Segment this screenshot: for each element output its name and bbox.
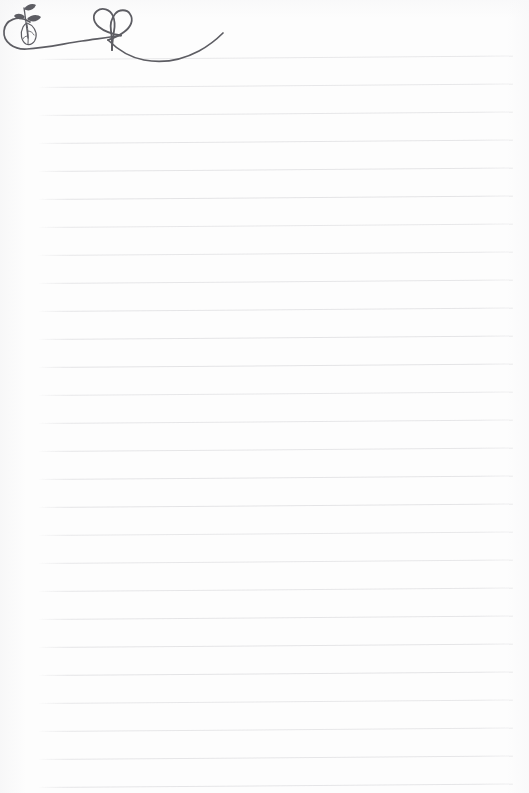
rule-line (38, 476, 513, 480)
rule-line (38, 532, 513, 536)
rule-line (38, 784, 513, 788)
rule-line (38, 672, 513, 676)
rule-line (38, 560, 513, 564)
rule-line (38, 56, 513, 60)
rule-line (38, 140, 513, 144)
rule-line (38, 168, 513, 172)
rule-line (38, 420, 513, 424)
rule-line (38, 728, 513, 732)
rule-line (38, 196, 513, 200)
rule-line (38, 616, 513, 620)
rule-line (38, 252, 513, 256)
rule-line (38, 756, 513, 760)
rule-line (38, 504, 513, 508)
rule-line (38, 280, 513, 284)
rule-line (38, 112, 513, 116)
rule-line (38, 308, 513, 312)
ruled-lines-layer (0, 0, 529, 793)
rule-line (38, 448, 513, 452)
rule-line (38, 336, 513, 340)
notepaper-page: Lined Notepaper Sheet (0, 0, 529, 793)
rule-line (38, 700, 513, 704)
rule-line (38, 84, 513, 88)
rule-line (38, 392, 513, 396)
rule-line (38, 224, 513, 228)
rule-line (38, 364, 513, 368)
rule-line (38, 588, 513, 592)
rule-line (38, 644, 513, 648)
